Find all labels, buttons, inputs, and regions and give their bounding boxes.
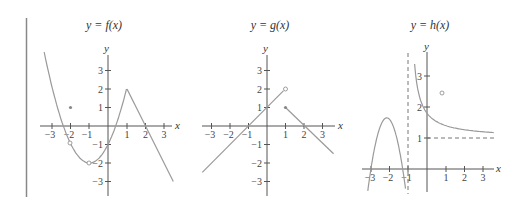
f-filled-point [69,106,72,109]
graph-f-title: y = f(x) [85,18,122,32]
tick-label: 2 [257,84,262,95]
graph-h-title: y = h(x) [410,18,450,32]
tick-label: −3 [205,129,216,140]
f-parabola-curve [44,52,126,163]
f-open-point [87,161,91,165]
graph-g-title: y = g(x) [250,18,290,32]
tick-label: 3 [417,71,422,82]
tick-label: 3 [257,65,262,76]
tick-label: 3 [481,172,486,183]
h-right-branch [415,64,494,133]
f-open-point [68,141,72,145]
tick-label: −2 [383,172,394,183]
y-axis-label: y [262,42,268,54]
tick-label: 2 [98,84,103,95]
tick-label: 1 [417,133,422,144]
tick-label: −2 [251,158,262,169]
tick-label: 1 [444,172,449,183]
tick-label: −3 [92,176,103,187]
tick-label: −3 [251,176,262,187]
x-axis-label: x [495,162,501,174]
tick-label: 2 [462,172,467,183]
tick-label: −1 [92,139,103,150]
tick-label: −1 [401,172,412,183]
y-axis-label: y [103,42,109,54]
tick-label: −1 [82,129,93,140]
x-axis-label: x [337,119,343,131]
tick-label: 3 [320,129,325,140]
tick-label: 1 [257,102,262,113]
tick-label: 3 [162,129,167,140]
tick-label: 1 [98,102,103,113]
tick-label: −1 [251,139,262,150]
y-axis-label: y [423,40,429,52]
tick-label: 2 [302,129,307,140]
graph-h: y = h(x) x y −3 −2 −1 1 2 3 3 2 1 [362,18,501,194]
g-right-line [286,108,334,154]
tick-label: −3 [45,129,56,140]
tick-label: −2 [223,129,234,140]
g-open-point [284,87,288,91]
h-open-point [440,91,444,95]
tick-label: 1 [125,129,130,140]
tick-label: 3 [98,65,103,76]
figure: y = f(x) x y −3 −2 −1 1 2 3 3 2 [0,0,528,208]
graph-g: y = g(x) x y −3 −2 −1 1 2 3 3 2 1 −1 [202,18,343,196]
g-filled-point [284,106,287,109]
x-axis-label: x [174,119,180,131]
tick-label: 1 [283,129,288,140]
